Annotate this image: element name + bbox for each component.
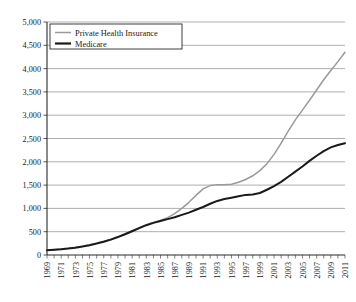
y-axis-labels: 05001,0001,5002,0002,5003,0003,5004,0004… (23, 18, 41, 260)
x-axis-tick-label: 2011 (341, 262, 350, 278)
chart-legend: Private Health InsuranceMedicare (50, 24, 182, 49)
chart-figure: 05001,0001,5002,0002,5003,0003,5004,0004… (0, 0, 356, 302)
x-axis-tick-label: 1987 (171, 262, 180, 278)
legend-label: Medicare (75, 40, 107, 49)
x-axis-tick-label: 1981 (128, 262, 137, 278)
x-axis-tick-label: 1991 (199, 262, 208, 278)
x-axis-labels: 1969197119731975197719791981198319851987… (43, 262, 350, 278)
y-axis-tick-label: 500 (29, 228, 41, 237)
x-axis-tick-label: 2001 (270, 262, 279, 278)
y-axis-tick-label: 4,000 (23, 65, 41, 74)
x-axis-tick-label: 1983 (143, 262, 152, 278)
x-axis-tick-label: 1975 (86, 262, 95, 278)
x-axis-tick-label: 1985 (157, 262, 166, 278)
x-axis-tick-label: 1977 (100, 262, 109, 278)
x-axis-tick-label: 1971 (57, 262, 66, 278)
y-axis-tick-label: 1,000 (23, 204, 41, 213)
line-chart: 05001,0001,5002,0002,5003,0003,5004,0004… (0, 0, 356, 302)
x-axis-tick-label: 2003 (284, 262, 293, 278)
y-axis-tick-label: 0 (37, 251, 41, 260)
x-axis-tick-label: 2005 (299, 262, 308, 278)
x-axis-tick-label: 1999 (256, 262, 265, 278)
x-axis-tick-label: 1969 (43, 262, 52, 278)
y-axis-tick-label: 2,000 (23, 158, 41, 167)
x-axis-tick-label: 2009 (327, 262, 336, 278)
y-axis-tick-label: 2,500 (23, 135, 41, 144)
y-axis-tick-label: 4,500 (23, 41, 41, 50)
y-axis-tick-label: 3,000 (23, 111, 41, 120)
figure-caption (0, 296, 356, 302)
x-axis-tick-label: 1973 (72, 262, 81, 278)
series-line (47, 52, 345, 250)
x-axis-tick-label: 1979 (114, 262, 123, 278)
x-axis-tick-label: 1997 (242, 262, 251, 278)
x-axis-tick-label: 2007 (313, 262, 322, 278)
x-axis-tick-label: 1995 (228, 262, 237, 278)
x-axis-tick-label: 1989 (185, 262, 194, 278)
legend-label: Private Health Insurance (75, 29, 158, 38)
y-axis-tick-label: 5,000 (23, 18, 41, 27)
x-axis-tick-label: 1993 (213, 262, 222, 278)
gridlines (47, 22, 345, 232)
y-axis-tick-label: 3,500 (23, 88, 41, 97)
y-axis-tick-label: 1,500 (23, 181, 41, 190)
data-series (47, 52, 345, 250)
series-line (47, 143, 345, 250)
